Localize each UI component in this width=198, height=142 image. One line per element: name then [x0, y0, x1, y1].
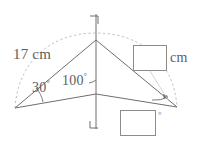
length-answer-box[interactable] — [133, 45, 167, 71]
degree-symbol-30: ° — [46, 78, 50, 88]
side-length-label: 17 cm — [13, 47, 51, 62]
angle-label-30: 30° — [32, 81, 50, 95]
angle-answer-box[interactable] — [120, 110, 156, 136]
geometry-drawing — [0, 0, 198, 142]
base-left-segment — [15, 94, 96, 108]
degree-symbol-answer: ° — [158, 110, 162, 120]
top-corner-bracket-icon — [90, 16, 98, 24]
angle-30-value: 30 — [32, 80, 46, 95]
bottom-corner-bracket-icon — [90, 121, 98, 128]
unit-label-cm: cm — [170, 51, 188, 65]
angle-label-100: 100° — [62, 74, 87, 88]
leader-line-length-box — [150, 71, 168, 100]
geometry-figure: 17 cm 30° 100° cm ° — [0, 0, 198, 142]
degree-symbol-100: ° — [84, 71, 88, 81]
angle-100-value: 100 — [62, 73, 84, 88]
angle-arc-100 — [89, 80, 96, 83]
